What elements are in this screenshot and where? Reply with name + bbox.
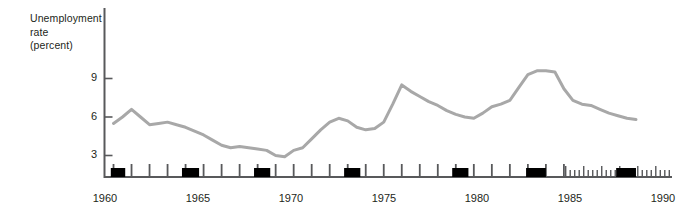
recession-bar-4 bbox=[452, 168, 468, 177]
recession-bar-1 bbox=[182, 168, 199, 177]
y-axis-ticks bbox=[105, 79, 113, 156]
recession-bar-5 bbox=[526, 168, 546, 177]
recession-bar-6 bbox=[616, 168, 636, 177]
recession-bar-2 bbox=[254, 168, 270, 177]
recession-bar-3 bbox=[344, 168, 360, 177]
x-axis-ticks bbox=[114, 164, 564, 177]
recession-bars-group bbox=[111, 168, 636, 177]
unemployment-rate-chart: Unemploymentrate(percent) 9 6 3 1960 196… bbox=[0, 0, 683, 217]
chart-canvas bbox=[0, 0, 683, 217]
unemployment-rate-line bbox=[114, 71, 636, 157]
axes-group bbox=[105, 8, 673, 178]
recession-bar-0 bbox=[111, 168, 125, 177]
